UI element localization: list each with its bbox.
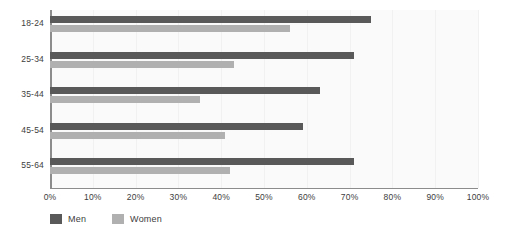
x-tick-100pct: 100% bbox=[467, 192, 490, 202]
bar-men-55-64 bbox=[50, 158, 354, 165]
bar-group bbox=[50, 81, 478, 117]
bar-men-35-44 bbox=[50, 87, 320, 94]
legend-swatch-icon bbox=[112, 214, 124, 224]
y-tick-35-44: 35-44 bbox=[0, 89, 44, 99]
bar-men-25-34 bbox=[50, 52, 354, 59]
legend: MenWomen bbox=[50, 214, 162, 224]
y-tick-55-64: 55-64 bbox=[0, 160, 44, 170]
y-tick-25-34: 25-34 bbox=[0, 54, 44, 64]
legend-item-men[interactable]: Men bbox=[50, 214, 86, 224]
y-tick-18-24: 18-24 bbox=[0, 18, 44, 28]
x-axis-line bbox=[50, 188, 478, 189]
legend-label: Women bbox=[130, 214, 162, 224]
bar-group bbox=[50, 117, 478, 153]
bar-women-18-24 bbox=[50, 25, 290, 32]
x-tick-60pct: 60% bbox=[298, 192, 316, 202]
x-tick-20pct: 20% bbox=[127, 192, 145, 202]
x-tick-70pct: 70% bbox=[341, 192, 359, 202]
bar-men-45-54 bbox=[50, 123, 303, 130]
legend-label: Men bbox=[68, 214, 86, 224]
x-tick-30pct: 30% bbox=[170, 192, 188, 202]
x-tick-0pct: 0% bbox=[44, 192, 57, 202]
bar-chart: 18-2425-3435-4445-5455-64 0%10%20%30%40%… bbox=[0, 0, 529, 243]
legend-swatch-icon bbox=[50, 214, 62, 224]
y-tick-45-54: 45-54 bbox=[0, 125, 44, 135]
x-tick-50pct: 50% bbox=[255, 192, 273, 202]
legend-item-women[interactable]: Women bbox=[112, 214, 162, 224]
bar-rows bbox=[50, 10, 478, 188]
bar-group bbox=[50, 152, 478, 188]
x-tick-10pct: 10% bbox=[84, 192, 102, 202]
bar-women-45-54 bbox=[50, 132, 225, 139]
x-tick-90pct: 90% bbox=[426, 192, 444, 202]
bar-women-25-34 bbox=[50, 61, 234, 68]
bar-women-35-44 bbox=[50, 96, 200, 103]
x-tick-80pct: 80% bbox=[384, 192, 402, 202]
gridline bbox=[478, 10, 479, 188]
x-tick-40pct: 40% bbox=[212, 192, 230, 202]
bar-group bbox=[50, 46, 478, 82]
bar-women-55-64 bbox=[50, 167, 230, 174]
bar-men-18-24 bbox=[50, 16, 371, 23]
bar-group bbox=[50, 10, 478, 46]
